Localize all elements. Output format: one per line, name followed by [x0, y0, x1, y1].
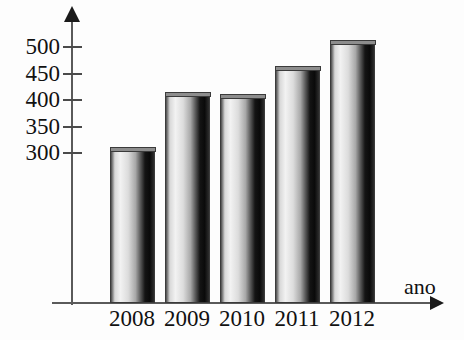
bar-2011: [275, 67, 320, 303]
y-tick-500: [63, 46, 82, 48]
bar-2009: [165, 92, 210, 303]
y-tick-400: [63, 99, 82, 101]
x-tick-label-2009: 2009: [157, 307, 217, 330]
bar-2010: [220, 95, 265, 303]
bar-top-cap: [165, 92, 211, 97]
arrow-up-icon: [64, 6, 80, 22]
x-tick-label-2010: 2010: [212, 307, 272, 330]
y-tick-350: [63, 126, 82, 128]
x-tick-label-2011: 2011: [267, 307, 327, 330]
y-tick-label-450: 450: [8, 62, 60, 85]
y-axis-labels: 300 350 400 450 500: [0, 0, 60, 340]
bar-chart: 300 350 400 450 500 2008 2009 2010 2011 …: [0, 0, 464, 340]
x-tick-label-2012: 2012: [322, 307, 382, 330]
bar-2012: [330, 40, 375, 303]
y-axis-line: [71, 20, 73, 305]
bar-top-cap: [330, 40, 376, 45]
y-tick-300: [63, 152, 82, 154]
bar-top-cap: [275, 66, 321, 71]
bar-2008: [110, 148, 155, 303]
y-tick-label-300: 300: [8, 141, 60, 164]
x-axis-title: ano: [404, 276, 436, 298]
y-tick-label-350: 350: [8, 115, 60, 138]
y-tick-label-500: 500: [8, 35, 60, 58]
y-tick-450: [63, 73, 82, 75]
bar-top-cap: [110, 147, 156, 152]
bar-top-cap: [220, 94, 266, 99]
x-tick-label-2008: 2008: [102, 307, 162, 330]
y-tick-label-400: 400: [8, 88, 60, 111]
